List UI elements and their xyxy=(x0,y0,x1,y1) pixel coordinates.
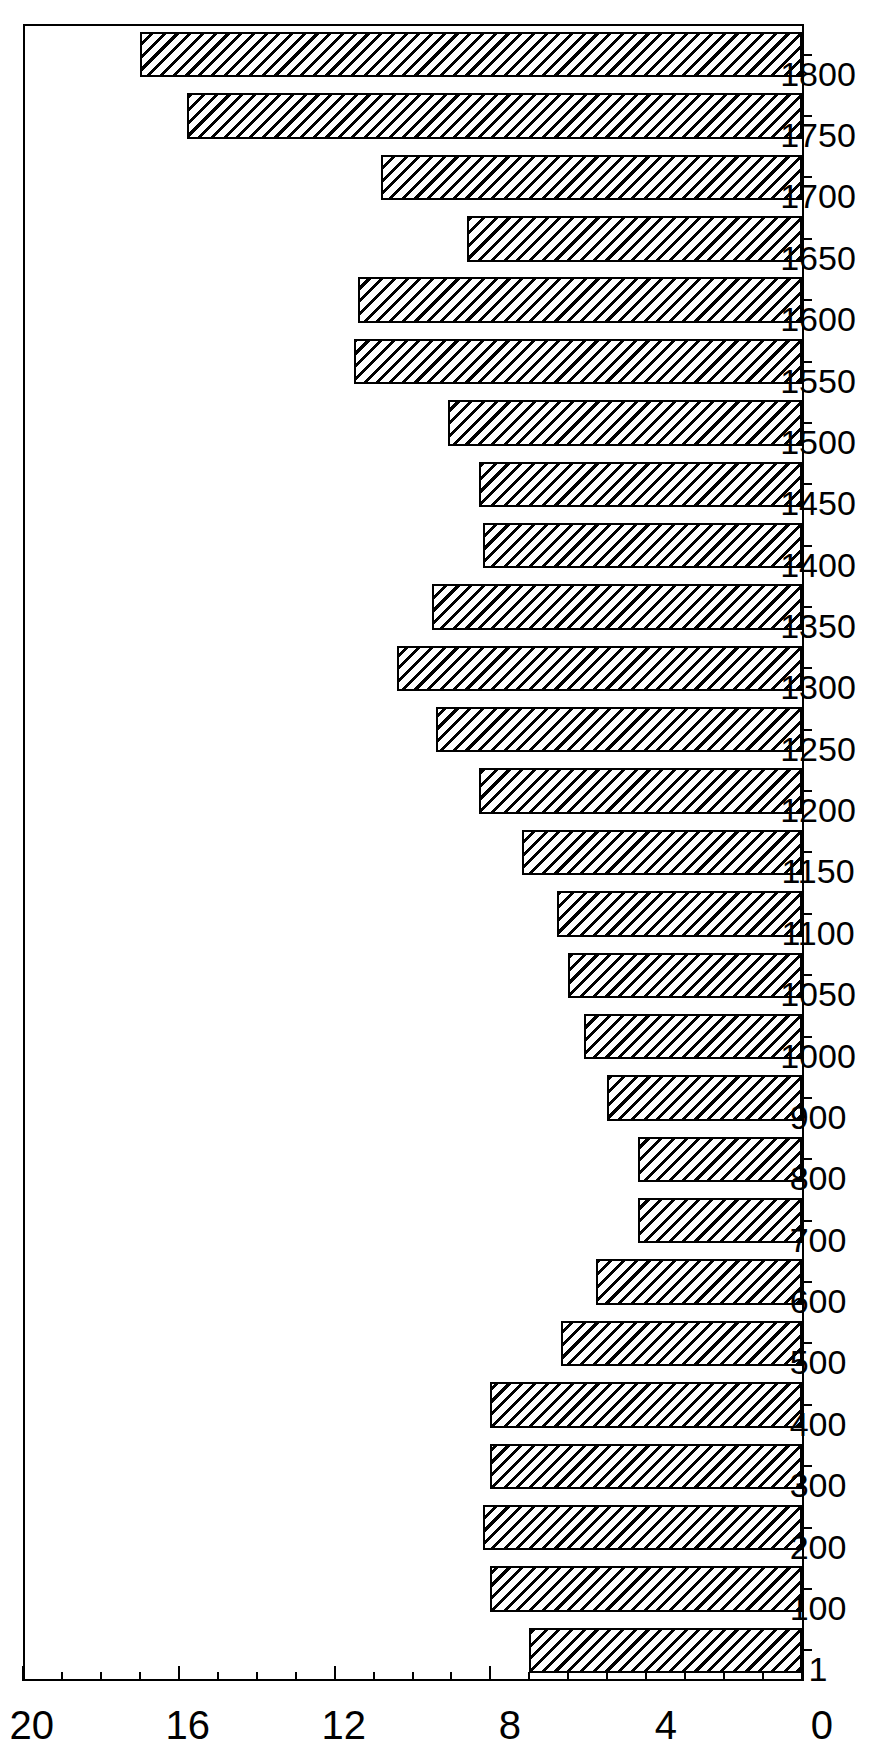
category-axis-label: 1350 xyxy=(780,607,856,646)
category-axis-label: 1250 xyxy=(780,730,856,769)
bar xyxy=(557,891,802,936)
bar xyxy=(596,1259,802,1304)
bar xyxy=(483,1505,802,1550)
bar xyxy=(479,462,802,507)
category-axis-label: 1050 xyxy=(780,975,856,1014)
category-axis-label: 1100 xyxy=(781,914,854,953)
value-axis-label: 12 xyxy=(304,1703,366,1748)
bar xyxy=(584,1014,802,1059)
category-axis-label: 400 xyxy=(790,1405,847,1444)
category-axis-label: 1 xyxy=(809,1650,828,1689)
category-axis-label: 1150 xyxy=(781,853,854,892)
bar xyxy=(490,1444,802,1489)
value-axis-label: 16 xyxy=(148,1703,210,1748)
bar xyxy=(397,646,802,691)
bar xyxy=(354,339,802,384)
category-axis-label: 1700 xyxy=(780,177,856,216)
category-axis-label: 800 xyxy=(790,1159,847,1198)
bar xyxy=(522,830,802,875)
bar xyxy=(561,1321,802,1366)
bar xyxy=(436,707,802,752)
category-axis-label: 1450 xyxy=(780,484,856,523)
category-axis-label: 1000 xyxy=(780,1037,856,1076)
bar xyxy=(432,584,802,629)
category-axis-label: 1300 xyxy=(780,668,856,707)
bar xyxy=(638,1198,802,1243)
bar-series xyxy=(23,24,802,1681)
bar xyxy=(490,1566,802,1611)
bar xyxy=(479,768,802,813)
bar xyxy=(568,953,802,998)
category-axis-label: 100 xyxy=(790,1589,847,1628)
category-axis-label: 1650 xyxy=(780,239,856,278)
category-axis-label: 1200 xyxy=(780,791,856,830)
category-axis-label: 200 xyxy=(790,1528,847,1567)
rotated-chart-stage: 201612840 110020030040050060070080090010… xyxy=(0,0,893,1756)
category-axis-label: 600 xyxy=(790,1282,847,1321)
value-axis-label: 4 xyxy=(615,1703,677,1748)
bar xyxy=(638,1137,802,1182)
category-axis-label: 300 xyxy=(790,1466,847,1505)
category-axis-label: 1750 xyxy=(780,116,856,155)
category-axis-label: 900 xyxy=(790,1098,847,1137)
bar xyxy=(483,523,802,568)
bar xyxy=(358,277,802,322)
category-axis-label: 1600 xyxy=(780,300,856,339)
category-axis-label: 1550 xyxy=(780,362,856,401)
bar xyxy=(140,32,802,77)
bar xyxy=(467,216,802,261)
bar xyxy=(381,155,802,200)
figure-page: 201612840 110020030040050060070080090010… xyxy=(0,0,893,1756)
bar xyxy=(529,1628,802,1673)
bar xyxy=(187,93,802,138)
category-axis-label: 1500 xyxy=(780,423,856,462)
value-axis-label: 20 xyxy=(0,1703,54,1748)
category-axis-label: 500 xyxy=(790,1343,847,1382)
bar xyxy=(490,1382,802,1427)
category-axis-label: 1400 xyxy=(780,546,856,585)
bar xyxy=(607,1075,802,1120)
category-axis-label: 1800 xyxy=(780,55,856,94)
value-axis-label: 0 xyxy=(771,1703,833,1748)
value-axis-label: 8 xyxy=(459,1703,521,1748)
category-axis-label: 700 xyxy=(790,1221,847,1260)
bar xyxy=(448,400,802,445)
